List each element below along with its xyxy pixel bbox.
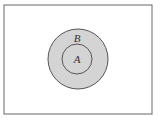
set-b-label: B — [74, 32, 81, 44]
set-a-label: A — [73, 53, 81, 65]
venn-diagram: B A — [0, 0, 160, 122]
